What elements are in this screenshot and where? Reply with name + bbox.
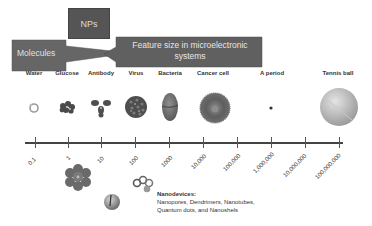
tennis-ball-icon: [320, 88, 358, 126]
nanoshell-icon: [104, 194, 120, 210]
axis-tick: [101, 137, 102, 148]
axis-tick: [237, 137, 238, 148]
scale-axis-line: [25, 142, 343, 144]
axis-tick: [305, 137, 306, 148]
axis-tick: [169, 137, 170, 148]
axis-tick: [203, 137, 204, 148]
bacteria-icon: [162, 93, 178, 121]
nanodevices-title: Nanodevices:: [157, 191, 196, 197]
axis-tick: [35, 137, 36, 148]
axis-tick: [68, 137, 69, 148]
axis-tick: [271, 137, 272, 148]
nanodevices-line-1: Nanopores, Dendrimers, Nanotubes,: [157, 199, 255, 205]
glucose-molecule-icon: [60, 101, 75, 114]
quantum-dots-icon: [134, 177, 153, 193]
axis-tick: [135, 137, 136, 148]
dendrimer-icon: [65, 164, 91, 191]
water-molecule-icon: [30, 104, 38, 112]
period-dot-icon: [269, 106, 272, 109]
nanodevices-line-2: Quantum dots, and Nanoshels: [157, 207, 238, 213]
virus-icon: [125, 96, 147, 118]
antibody-icon: [91, 100, 111, 118]
cancer-cell-icon: [200, 93, 230, 123]
axis-tick: [339, 137, 340, 148]
